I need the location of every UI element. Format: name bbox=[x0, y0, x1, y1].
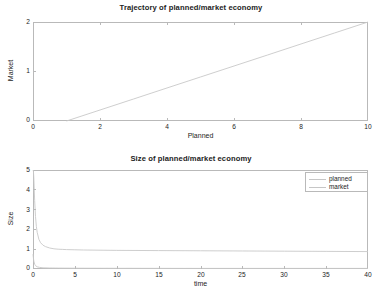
xtick-mark bbox=[100, 118, 101, 121]
xaxis-label-planned: Planned bbox=[33, 132, 368, 139]
ytick-label: 2 bbox=[14, 18, 30, 25]
xtick-mark bbox=[234, 118, 235, 121]
matlab-figure: Trajectory of planned/market economy 2 1… bbox=[0, 0, 382, 298]
xtick-label: 10 bbox=[105, 271, 129, 278]
xtick-label: 15 bbox=[147, 271, 171, 278]
xtick-label: 0 bbox=[21, 271, 45, 278]
ytick-mark bbox=[33, 209, 36, 210]
xtick-mark bbox=[326, 266, 327, 269]
xtick-mark bbox=[201, 266, 202, 269]
xtick-label: 30 bbox=[272, 271, 296, 278]
xtick-label: 35 bbox=[314, 271, 338, 278]
ytick-mark bbox=[33, 189, 36, 190]
xtick-label: 20 bbox=[189, 271, 213, 278]
xtick-label: 5 bbox=[63, 271, 87, 278]
plot-lines-trajectory bbox=[0, 0, 382, 149]
xtick-label: 40 bbox=[356, 271, 380, 278]
legend-box[interactable]: planned market bbox=[305, 172, 368, 192]
ytick-label: 5 bbox=[14, 166, 30, 173]
xtick-mark bbox=[301, 118, 302, 121]
xtick-label: 25 bbox=[230, 271, 254, 278]
legend-item-planned[interactable]: planned bbox=[309, 175, 364, 183]
yaxis-label-size: Size bbox=[7, 199, 14, 239]
chart-trajectory: Trajectory of planned/market economy 2 1… bbox=[0, 0, 382, 149]
xtick-mark bbox=[117, 266, 118, 269]
xtick-mark bbox=[234, 22, 235, 25]
xaxis-label-time: time bbox=[33, 280, 368, 287]
legend-label-market: market bbox=[329, 183, 349, 191]
xtick-mark bbox=[301, 22, 302, 25]
xtick-label: 8 bbox=[289, 123, 313, 130]
yaxis-label-market: Market bbox=[7, 51, 14, 91]
legend-swatch-market bbox=[309, 187, 326, 188]
legend-swatch-planned bbox=[309, 179, 326, 180]
xtick-mark bbox=[284, 266, 285, 269]
xtick-label: 6 bbox=[222, 123, 246, 130]
xtick-mark bbox=[159, 266, 160, 269]
legend-label-planned: planned bbox=[329, 175, 352, 183]
xtick-mark bbox=[100, 22, 101, 25]
series-trajectory bbox=[67, 22, 369, 121]
ytick-mark bbox=[33, 229, 36, 230]
xtick-label: 10 bbox=[356, 123, 380, 130]
xtick-label: 2 bbox=[88, 123, 112, 130]
ytick-label: 1 bbox=[14, 245, 30, 252]
xtick-mark bbox=[75, 266, 76, 269]
ytick-label: 0 bbox=[14, 264, 30, 271]
ytick-label: 0 bbox=[14, 116, 30, 123]
ytick-label: 1 bbox=[14, 67, 30, 74]
ytick-label: 2 bbox=[14, 225, 30, 232]
ytick-mark bbox=[33, 71, 36, 72]
xtick-mark bbox=[242, 266, 243, 269]
xtick-label: 4 bbox=[155, 123, 179, 130]
chart-size: Size of planned/market economy 5 4 3 2 1… bbox=[0, 149, 382, 298]
legend-item-market[interactable]: market bbox=[309, 183, 364, 191]
ytick-mark bbox=[33, 249, 36, 250]
xtick-mark bbox=[167, 118, 168, 121]
xtick-mark bbox=[167, 22, 168, 25]
xtick-label: 0 bbox=[21, 123, 45, 130]
ytick-label: 3 bbox=[14, 206, 30, 213]
ytick-label: 4 bbox=[14, 186, 30, 193]
